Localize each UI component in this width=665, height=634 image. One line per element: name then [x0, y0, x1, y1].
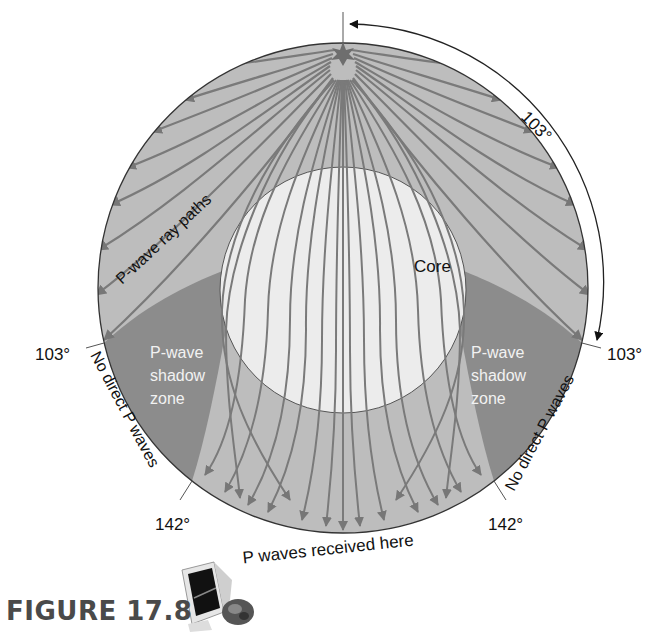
- tick-left-142: [180, 481, 192, 500]
- label-core: Core: [414, 257, 451, 276]
- label-angle-right-142: 142°: [488, 515, 523, 534]
- label-shadow-right-3: zone: [471, 390, 506, 407]
- tick-left-103: [86, 343, 104, 348]
- p-wave-shadow-diagram: 103° 103° 103° 142° 142° Core P-wave ray…: [0, 0, 665, 634]
- label-shadow-left-1: P-wave: [150, 344, 203, 361]
- tick-right-103: [582, 343, 601, 348]
- label-angle-right-103: 103°: [607, 345, 642, 364]
- figure-caption: FIGURE 17.8: [6, 596, 192, 626]
- label-shadow-right-1: P-wave: [471, 344, 524, 361]
- label-angle-left-142: 142°: [155, 515, 190, 534]
- label-shadow-left-3: zone: [150, 390, 185, 407]
- label-angle-left-103: 103°: [35, 345, 70, 364]
- label-shadow-right-2: shadow: [471, 367, 527, 384]
- label-shadow-left-2: shadow: [150, 367, 206, 384]
